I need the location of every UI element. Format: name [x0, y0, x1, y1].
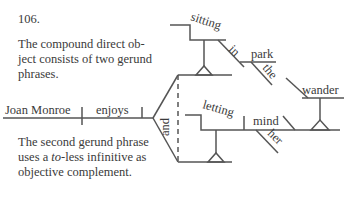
gerund2-word: letting [201, 97, 236, 119]
lower-pedestal-triangle [208, 153, 224, 162]
fork-upper-branch [153, 75, 178, 118]
subject-word: Joan Monroe [5, 103, 71, 117]
prep-object-word: park [251, 47, 274, 61]
prep-in-word: in [226, 42, 243, 59]
gerund1-word: sitting [189, 10, 224, 33]
object-complement-slant [283, 116, 295, 130]
verb-word: enjoys [96, 103, 129, 117]
conjunction-word: and [158, 117, 172, 136]
complement-word: wander [302, 83, 340, 97]
upper-pedestal-triangle [196, 66, 212, 75]
sentence-diagram: Joan Monroe enjoys and sitting in park t… [0, 0, 346, 197]
complement-pedestal-triangle [311, 120, 329, 130]
modifier-the-word: the [260, 61, 281, 82]
